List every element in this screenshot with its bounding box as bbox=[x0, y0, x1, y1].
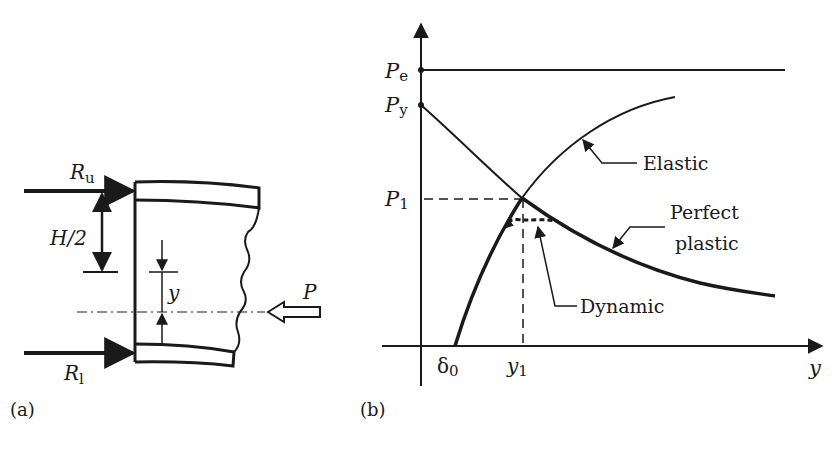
perfect-plastic-leader bbox=[613, 227, 665, 248]
offset-label: y bbox=[167, 281, 180, 305]
panel-b-label: (b) bbox=[360, 399, 386, 420]
figure-canvas: Ru Rl H/2 y P (a) bbox=[0, 0, 839, 454]
elastic-curve bbox=[522, 97, 675, 198]
elastic-leader bbox=[583, 140, 637, 163]
half-height-label: H/2 bbox=[49, 226, 87, 250]
dynamic-curve bbox=[508, 220, 556, 223]
perfect-plastic-curve bbox=[421, 105, 522, 198]
perfect-plastic-label-line1: Perfect bbox=[670, 201, 739, 223]
dynamic-leader bbox=[538, 227, 577, 306]
perfect-plastic-label-line2: plastic bbox=[675, 232, 739, 254]
panel-b: Pe Py P1 Elastic Perfect plastic Dynamic… bbox=[360, 24, 822, 420]
axial-load-arrow bbox=[268, 302, 320, 322]
y-tick-pe: Pe bbox=[384, 59, 408, 85]
x-axis-label: y bbox=[808, 356, 822, 380]
upper-flange bbox=[135, 182, 259, 208]
axial-load-label: P bbox=[302, 280, 317, 304]
panel-a: Ru Rl H/2 y P (a) bbox=[10, 160, 320, 420]
break-line bbox=[234, 208, 259, 352]
x-tick-delta0: δ0 bbox=[437, 354, 459, 380]
lower-reaction-label: Rl bbox=[63, 361, 84, 388]
lower-flange bbox=[135, 344, 234, 366]
y-tick-py: Py bbox=[384, 93, 408, 119]
upper-reaction-label: Ru bbox=[69, 160, 95, 187]
y-tick-p1: P1 bbox=[384, 187, 409, 213]
elastic-label: Elastic bbox=[643, 152, 708, 174]
panel-a-label: (a) bbox=[10, 399, 35, 420]
x-tick-y1: y1 bbox=[506, 354, 528, 380]
euler-load-point bbox=[418, 67, 424, 73]
dynamic-label: Dynamic bbox=[580, 295, 664, 317]
